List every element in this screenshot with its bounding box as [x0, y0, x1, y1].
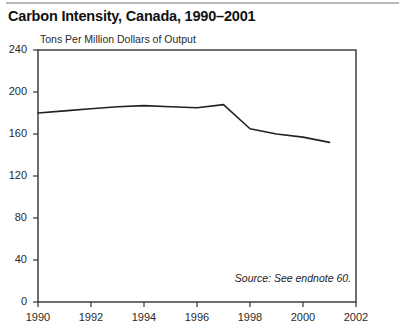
plot-frame	[38, 50, 356, 302]
x-tick-label: 1992	[69, 311, 113, 323]
source-note: Source: See endnote 60.	[235, 272, 351, 284]
x-tick-label: 1990	[16, 311, 60, 323]
y-tick-label: 40	[0, 253, 27, 265]
x-tick-label: 2000	[281, 311, 325, 323]
y-tick-label: 240	[0, 43, 27, 55]
chart-figure: Carbon Intensity, Canada, 1990–2001 Tons…	[0, 0, 405, 333]
y-tick-label: 120	[0, 169, 27, 181]
x-axis-tick-marks	[38, 302, 356, 307]
x-tick-label: 1998	[228, 311, 272, 323]
y-tick-label: 0	[0, 295, 27, 307]
y-tick-label: 160	[0, 127, 27, 139]
x-tick-label: 1996	[175, 311, 219, 323]
y-tick-label: 80	[0, 211, 27, 223]
x-tick-label: 2002	[334, 311, 378, 323]
y-axis-tick-marks	[33, 50, 38, 302]
x-tick-label: 1994	[122, 311, 166, 323]
y-tick-label: 200	[0, 85, 27, 97]
